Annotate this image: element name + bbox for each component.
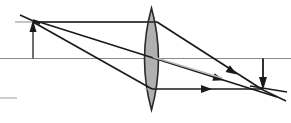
ray-faint-from-lens-center — [153, 57, 222, 78]
ray-faint-from-lens-center-segment-0 — [153, 57, 222, 78]
ray-diagram-canvas — [0, 0, 291, 123]
ray-extension-upper-left — [20, 15, 40, 24]
ray-extension-upper-left-segment-0 — [20, 15, 40, 24]
ray-parallel-then-through-focus-segment-1 — [157, 22, 263, 90]
object-arrow-group — [30, 20, 37, 59]
ray-through-focus-then-parallel-arrowhead — [201, 85, 212, 93]
image-arrow-group — [259, 59, 267, 91]
optics-diagram-svg — [0, 0, 291, 123]
ray-through-focus-then-parallel-segment-0 — [33, 22, 152, 89]
